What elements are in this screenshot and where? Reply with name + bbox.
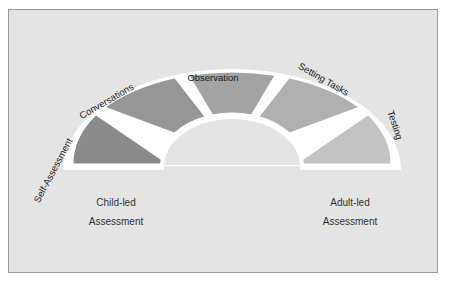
child-led-caption-line2: Assessment	[89, 216, 144, 227]
child-led-caption-line1: Child-led	[96, 197, 135, 208]
hub-baseline-cover	[164, 166, 300, 171]
assessment-arc-diagram: Self-AssessmentConversationsObservationS…	[0, 0, 455, 285]
adult-led-caption-line2: Assessment	[323, 216, 378, 227]
segment-label-self-assessment: Self-Assessment	[31, 136, 74, 204]
segment-label-observation: Observation	[187, 72, 238, 83]
adult-led-caption-line1: Adult-led	[330, 197, 369, 208]
